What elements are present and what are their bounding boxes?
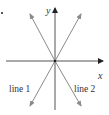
line-1-label: line 1 [9,84,31,94]
line-1-lower [30,61,55,106]
origin-point [54,60,57,63]
bullet-dot [1,12,3,14]
line-2-label: line 2 [74,84,96,94]
y-axis-label: y [45,5,51,16]
coordinate-diagram: y x line 1 line 2 [0,0,109,115]
x-axis-label: x [97,70,103,81]
line-2 [30,14,55,61]
line-1 [55,14,81,61]
